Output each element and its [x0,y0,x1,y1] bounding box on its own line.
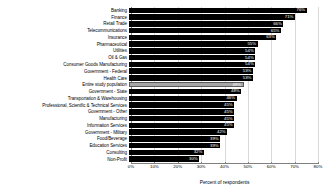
x-axis-tick-label: 60% [267,164,276,170]
bar-value-label: 45% [224,123,233,128]
bar-value-label: 45% [224,103,233,108]
bar: 54% [129,62,255,68]
bar-row: Government - Federal53% [0,68,336,75]
bar-value-label: 53% [243,69,252,74]
bar: 54% [129,48,255,54]
category-label: Government - Federal [0,69,129,74]
bar-value-label: 39% [210,137,219,142]
bar-row: Health Care53% [0,75,336,82]
bar-row: Manufacturing45% [0,115,336,122]
bar: 66% [129,21,283,27]
bar-track: 53% [129,75,336,82]
bar-track: 53% [129,68,336,75]
x-axis-tick-label: 30% [197,164,206,170]
bar-value-label: 49% [232,82,241,87]
bar-track: 30% [129,156,336,163]
bar-row: Utilities54% [0,48,336,55]
bar-row: Entire study population49% [0,81,336,88]
category-label: Consumer Goods Manufacturing [0,62,129,67]
category-label: Consulting [0,150,129,155]
x-axis-tick-label: 0% [128,164,134,170]
bar-row: Government - Military42% [0,129,336,136]
bar-value-label: 32% [194,150,203,155]
bar-value-label: 45% [224,110,233,115]
category-label: Education Services [0,143,129,148]
x-axis-tick-label: 50% [243,164,252,170]
bar-track: 42% [129,129,336,136]
bar-row: Non-Profit30% [0,156,336,163]
bar-row: Government - State48% [0,88,336,95]
bar-track: 39% [129,142,336,149]
bar-row: Banking76% [0,7,336,14]
bar-row: Oil & Gas54% [0,54,336,61]
bar: 45% [129,116,234,122]
category-label: Oil & Gas [0,55,129,60]
bar-value-label: 46% [226,96,235,101]
category-label: Manufacturing [0,116,129,121]
category-label: Non-Profit [0,157,129,162]
category-label: Government - Other [0,109,129,114]
bar-track: 54% [129,61,336,68]
bar: 32% [129,150,204,156]
bar-value-label: 63% [266,35,275,40]
bar: 39% [129,136,220,142]
bar-rows: Banking76%Finance71%Retail Trade66%Telec… [0,7,336,163]
bar-row: Food/Beverage39% [0,136,336,143]
bar-track: 54% [129,48,336,55]
x-axis-tick-label: 80% [314,164,323,170]
category-label: Retail Trade [0,21,129,26]
bar-row: Insurance63% [0,34,336,41]
bar-value-label: 30% [189,157,198,162]
bar-row: Finance71% [0,14,336,21]
bar: 53% [129,75,253,81]
bar-row: Information Services45% [0,122,336,129]
bar-track: 63% [129,34,336,41]
x-axis-tick-label: 10% [150,164,159,170]
bar-value-label: 65% [271,28,280,33]
category-label: Transportation & Warehousing [0,96,129,101]
bar-row: Professional, Scientfic & Technical Serv… [0,102,336,109]
bar-value-label: 39% [210,143,219,148]
bar: 53% [129,68,253,74]
bar-row: Government - Other45% [0,108,336,115]
bar-row: Education Services39% [0,142,336,149]
bar-track: 45% [129,122,336,129]
x-axis-ticks: 0%10%20%30%40%50%60%70%80% [131,164,318,174]
bar-value-label: 66% [273,22,282,27]
bar-row: Retail Trade66% [0,21,336,28]
bar-track: 66% [129,21,336,28]
bar-value-label: 54% [245,55,254,60]
bar-value-label: 48% [231,89,240,94]
bar-track: 65% [129,27,336,34]
category-label: Insurance [0,35,129,40]
bar: 45% [129,102,234,108]
bar-track: 45% [129,108,336,115]
bar-value-label: 54% [245,49,254,54]
bar-value-label: 53% [243,76,252,81]
bar-value-label: 76% [297,8,306,13]
bar-row: Telecommunications65% [0,27,336,34]
bar: 39% [129,143,220,149]
category-label: Government - State [0,89,129,94]
bar-value-label: 42% [217,130,226,135]
bar-track: 32% [129,149,336,156]
bar-row: Transportation & Warehousing46% [0,95,336,102]
bar-track: 48% [129,88,336,95]
bar-row: Pharmaceutical55% [0,41,336,48]
bar: 45% [129,109,234,115]
category-label: Health Care [0,76,129,81]
category-label: Food/Beverage [0,136,129,141]
bar-row: Consumer Goods Manufacturing54% [0,61,336,68]
bar-row: Consulting32% [0,149,336,156]
bar-highlighted: 49% [129,82,244,88]
bar-track: 45% [129,102,336,109]
bar-value-label: 54% [245,62,254,67]
bar-value-label: 55% [247,42,256,47]
bar-track: 71% [129,14,336,21]
bar: 46% [129,96,237,102]
bar: 55% [129,41,258,47]
bar-track: 55% [129,41,336,48]
bar-track: 45% [129,115,336,122]
bar: 48% [129,89,241,95]
category-label: Government - Military [0,130,129,135]
